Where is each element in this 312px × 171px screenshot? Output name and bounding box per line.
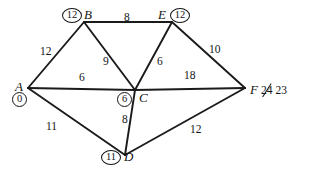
edge-B-C bbox=[84, 22, 135, 90]
edge-weight-B-E: 8 bbox=[124, 12, 130, 24]
graph-diagram-canvas: A 0 12 B 6 C 11 D E 12 F 24 23 12 8 9 6 … bbox=[0, 0, 312, 171]
node-label-F: F bbox=[250, 82, 258, 98]
edge-weight-D-F: 12 bbox=[190, 124, 202, 136]
edge-C-F bbox=[135, 88, 245, 90]
node-F-annotation: F 24 23 bbox=[250, 82, 287, 98]
node-distance-B: 12 bbox=[62, 8, 82, 23]
edge-weight-B-C: 9 bbox=[103, 56, 109, 68]
node-label-E: E bbox=[158, 8, 166, 21]
node-label-D: D bbox=[124, 150, 133, 163]
edge-weight-A-B: 12 bbox=[40, 46, 52, 58]
edge-weight-C-F: 18 bbox=[184, 70, 196, 82]
node-distance-F-old: 24 bbox=[261, 84, 273, 96]
node-label-B: B bbox=[84, 8, 92, 21]
edge-weight-A-C: 6 bbox=[79, 72, 85, 84]
node-distance-E: 12 bbox=[170, 8, 190, 23]
edge-weight-E-F: 10 bbox=[209, 44, 221, 56]
node-distance-C: 6 bbox=[117, 92, 132, 107]
edge-weight-A-D: 11 bbox=[46, 121, 57, 133]
node-label-C: C bbox=[139, 91, 148, 104]
node-distance-D: 11 bbox=[101, 150, 121, 165]
edge-A-B bbox=[28, 22, 84, 88]
edge-A-C bbox=[28, 88, 135, 90]
edge-weight-C-D: 8 bbox=[122, 114, 128, 126]
edge-weight-C-E: 6 bbox=[157, 56, 163, 68]
node-distance-F: 23 bbox=[275, 84, 287, 96]
edge-A-D bbox=[28, 88, 125, 155]
node-distance-A: 0 bbox=[12, 92, 27, 107]
edge-C-E bbox=[135, 22, 172, 90]
